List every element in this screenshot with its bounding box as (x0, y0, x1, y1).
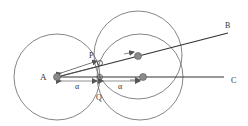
arrow-to-AB-dot (124, 52, 134, 54)
label-B: B (225, 21, 230, 30)
label-alpha-left: α (75, 82, 80, 91)
point-A-dot (54, 74, 61, 81)
label-P: P (89, 51, 94, 60)
label-alpha-right: α (118, 82, 123, 91)
label-A: A (40, 72, 47, 82)
point-AC-dot (140, 74, 147, 81)
point-AB-dot (135, 53, 142, 60)
label-Q: Q (96, 93, 102, 102)
label-C: C (231, 76, 236, 85)
geometry-diagram: A B C P Q α α (0, 0, 248, 126)
